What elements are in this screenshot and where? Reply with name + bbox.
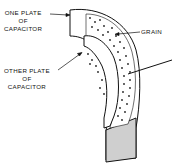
grain-label: GRAIN — [141, 28, 162, 36]
one-plate-label-line3: CAPACITOR — [4, 25, 42, 33]
grain-label-text: GRAIN — [141, 28, 162, 36]
one-plate-label-line2: OF — [4, 17, 42, 25]
one-plate-label-line1: ONE PLATE — [4, 9, 42, 17]
other-plate-label-line3: CAPACITOR — [4, 83, 50, 91]
one-plate-label: ONE PLATE OF CAPACITOR — [4, 9, 42, 32]
other-plate-label-line1: OTHER PLATE — [4, 67, 50, 75]
other-plate-label-line2: OF — [4, 75, 50, 83]
other-plate-label: OTHER PLATE OF CAPACITOR — [4, 67, 50, 90]
